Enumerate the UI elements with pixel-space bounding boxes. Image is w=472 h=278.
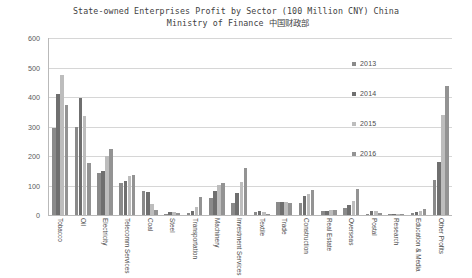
bar [60,75,64,215]
x-tick-label: Electricity [101,218,108,245]
bar [374,211,378,215]
x-tick-cell: Transportation [183,217,205,278]
x-tick-cell: Overseas [340,217,362,278]
bar [258,211,262,215]
x-tick-label: Trade [281,218,288,234]
bar [209,198,213,215]
bar-group [206,38,228,215]
x-tick-cell: Tobacco [49,217,71,278]
bar-group [161,38,183,215]
bar [101,171,105,215]
bar [307,194,311,215]
bar [441,115,445,215]
bar [415,212,419,215]
y-tick-label: 400 [28,93,40,102]
y-tick-label: 500 [28,63,40,72]
bar [191,211,195,215]
bar [433,180,437,215]
legend-label: 2013 [360,60,376,67]
bar [168,212,172,215]
bar [244,168,248,215]
legend-swatch-icon [352,92,356,96]
x-tick-label: Overseas [348,218,355,245]
bar-group [139,38,161,215]
x-tick-cell: Electricity [94,217,116,278]
legend-item[interactable]: 2013 [352,60,376,67]
bar-group [228,38,250,215]
bar [347,205,351,215]
bar [276,202,280,215]
y-tick-label: 0 [36,211,40,220]
bar-group [251,38,273,215]
bar [325,211,329,215]
bar-group [116,38,138,215]
legend-label: 2014 [360,90,376,97]
bar [262,212,266,215]
bar [75,127,79,215]
legend-swatch-icon [352,122,356,126]
bar [392,214,396,215]
x-tick-cell: Construction [295,217,317,278]
bar [87,163,91,215]
bar [343,208,347,215]
bar [254,212,258,215]
bar [231,203,235,215]
chart-legend: 2013201420152016 [352,60,422,160]
chart-title: State-owned Enterprises Profit by Sector… [0,6,472,18]
bar [288,203,292,215]
x-tick-label: Steel [169,218,176,233]
bar [187,213,191,215]
x-tick-label: Machinery [213,218,220,247]
chart-subtitle: Ministry of Finance 中国财政部 [0,18,472,30]
bar-group [94,38,116,215]
bar-group [183,38,205,215]
x-tick-cell: Trade [273,217,295,278]
bar-group [49,38,71,215]
bar-group [273,38,295,215]
x-tick-cell: Postal [362,217,384,278]
bar [423,209,427,215]
bar [299,203,303,215]
x-tick-cell: Telecomm Services [116,217,138,278]
bar [146,192,150,215]
bar [124,181,128,216]
x-tick-label: Research [393,218,400,245]
x-tick-label: Other Profits [437,218,444,254]
legend-item[interactable]: 2016 [352,150,376,157]
x-tick-label: Coal [146,218,153,231]
bar [333,210,337,215]
bar [150,204,154,216]
x-tick-label: Transportation [191,218,198,259]
bar [266,214,270,215]
bar [128,176,132,215]
chart-title-block: State-owned Enterprises Profit by Sector… [0,6,472,29]
bar [109,149,113,215]
bar [172,212,176,215]
y-tick-label: 100 [28,181,40,190]
bar [437,162,441,215]
bar [396,214,400,215]
x-tick-label: Telecomm Services [124,218,131,273]
y-tick-label: 300 [28,122,40,131]
bar [65,105,69,215]
x-axis-labels: TobaccoOilElectricityTelecomm ServicesCo… [49,217,452,278]
bar [388,214,392,215]
bar [176,213,180,215]
x-tick-cell: Other Profits [430,217,452,278]
x-tick-label: Education & Media [415,218,422,272]
bar [56,94,60,215]
legend-label: 2016 [360,150,376,157]
bar-group [318,38,340,215]
bar [213,191,217,215]
x-tick-cell: Textile [251,217,273,278]
x-tick-label: Real Estate [325,218,332,251]
bar [154,210,158,215]
legend-item[interactable]: 2015 [352,120,376,127]
legend-label: 2015 [360,120,376,127]
bar-group [430,38,452,215]
bar [356,189,360,215]
x-tick-cell: Education & Media [407,217,429,278]
bar [83,116,87,215]
legend-item[interactable]: 2014 [352,90,376,97]
bar [303,196,307,215]
